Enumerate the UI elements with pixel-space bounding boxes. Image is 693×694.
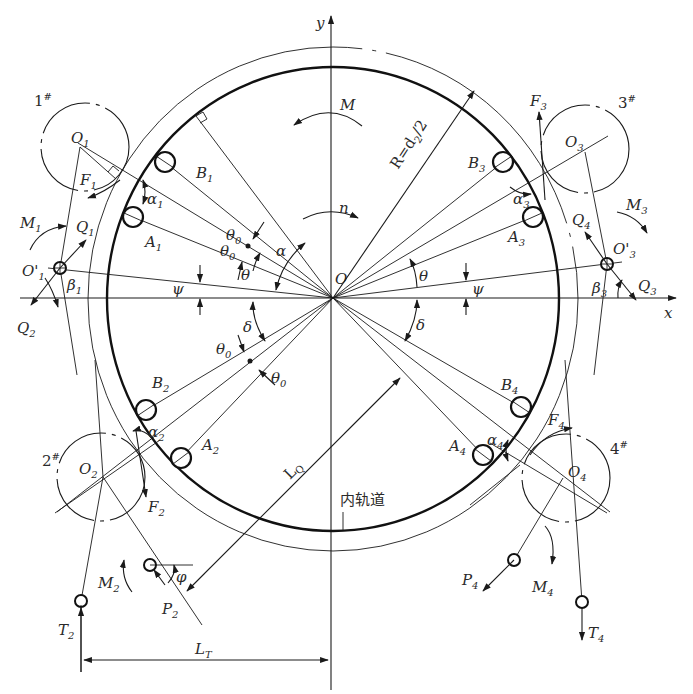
svg-text:4#: 4# <box>610 439 628 458</box>
moment-M-label: M <box>339 96 356 114</box>
svg-text:O1: O1 <box>71 129 90 149</box>
ball-B4 <box>511 397 531 417</box>
svg-text:Q1: Q1 <box>76 218 95 238</box>
svg-text:α4: α4 <box>487 431 504 451</box>
svg-text:B4: B4 <box>500 376 518 396</box>
svg-text:T2: T2 <box>58 621 74 641</box>
x-axis-label: x <box>664 304 673 322</box>
svg-text:ψ: ψ <box>472 280 484 298</box>
svg-text:θ0: θ0 <box>216 340 232 360</box>
svg-text:LQ: LQ <box>280 457 306 483</box>
svg-text:Q3: Q3 <box>638 277 657 297</box>
radial-lines <box>48 112 622 591</box>
svg-text:F4: F4 <box>547 411 565 431</box>
svg-text:O'1: O'1 <box>22 262 45 282</box>
svg-text:1#: 1# <box>34 91 52 110</box>
svg-text:α2: α2 <box>148 423 165 443</box>
ball-B3 <box>493 152 513 172</box>
svg-text:δ: δ <box>416 316 425 334</box>
radius-line <box>333 91 474 298</box>
radius-label: R=d2/2 <box>386 117 432 174</box>
svg-text:M2: M2 <box>97 574 120 594</box>
svg-text:O'3: O'3 <box>613 240 636 260</box>
pivot-T4 <box>576 596 588 608</box>
moment-M-arrow <box>294 113 362 126</box>
y-axis-label: y <box>315 14 325 32</box>
svg-text:α: α <box>276 242 286 260</box>
svg-text:M3: M3 <box>625 196 648 216</box>
svg-text:Q4: Q4 <box>572 211 591 231</box>
ball-A2 <box>171 448 191 468</box>
svg-text:φ: φ <box>176 568 187 586</box>
ball-B2 <box>136 400 156 420</box>
moments-center: M n <box>294 96 362 219</box>
rotation-n-label: n <box>339 199 349 217</box>
balls <box>123 152 543 468</box>
outer-race <box>88 47 578 551</box>
svg-text:F2: F2 <box>147 498 165 518</box>
races: 内轨道 R=d2/2 <box>88 47 578 551</box>
svg-text:A3: A3 <box>506 228 525 248</box>
svg-text:3#: 3# <box>618 93 636 112</box>
svg-text:β1: β1 <box>66 276 82 296</box>
svg-text:θ: θ <box>419 267 428 285</box>
svg-text:A2: A2 <box>200 436 219 456</box>
svg-text:O4: O4 <box>568 463 587 483</box>
forces: F1 Q1 Q2 M1 F3 Q4 Q3 M3 F2 T2 φ P2 M2 <box>17 92 657 672</box>
svg-text:P2: P2 <box>161 600 178 620</box>
svg-text:A4: A4 <box>447 437 466 457</box>
inner-race-label: 内轨道 <box>340 491 385 509</box>
svg-text:θ: θ <box>241 266 250 284</box>
svg-text:ψ: ψ <box>172 280 184 298</box>
svg-text:M4: M4 <box>531 578 554 598</box>
svg-text:B3: B3 <box>467 154 485 174</box>
svg-text:θ0: θ0 <box>220 242 236 262</box>
svg-text:2#: 2# <box>42 451 60 470</box>
LQ-dimension <box>187 378 400 591</box>
svg-text:B2: B2 <box>151 374 169 394</box>
svg-text:α3: α3 <box>513 190 530 210</box>
svg-text:O3: O3 <box>565 133 584 153</box>
ball-B1 <box>155 152 175 172</box>
svg-text:LT: LT <box>194 640 213 660</box>
svg-text:O2: O2 <box>79 460 98 480</box>
svg-text:F1: F1 <box>79 171 97 191</box>
svg-text:P4: P4 <box>461 571 478 591</box>
svg-text:B1: B1 <box>195 164 213 184</box>
ball-A3 <box>523 207 543 227</box>
svg-text:δ: δ <box>243 318 252 336</box>
svg-text:Q2: Q2 <box>17 319 36 339</box>
svg-text:M1: M1 <box>19 214 42 234</box>
bearing-force-diagram: x y O 内轨道 R=d2/2 M n <box>0 0 693 694</box>
svg-text:A1: A1 <box>143 233 162 253</box>
svg-text:F3: F3 <box>529 92 547 112</box>
ball-A1 <box>123 207 143 227</box>
svg-text:T4: T4 <box>588 624 604 644</box>
roller-3 <box>541 105 629 193</box>
svg-text:θ0: θ0 <box>271 369 287 389</box>
